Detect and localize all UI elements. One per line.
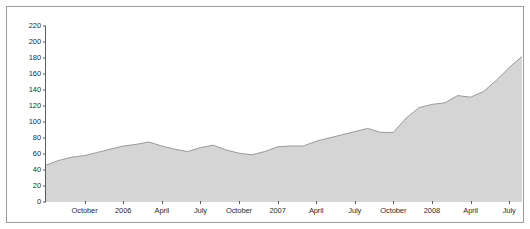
x-tick-label: July bbox=[503, 207, 516, 215]
y-tick-mark bbox=[43, 58, 46, 59]
x-tick-label: 2006 bbox=[115, 207, 131, 215]
y-tick-mark bbox=[43, 202, 46, 203]
y-tick-mark bbox=[43, 26, 46, 27]
y-tick-mark bbox=[43, 138, 46, 139]
x-tick-mark bbox=[393, 201, 394, 204]
area-chart-svg bbox=[46, 26, 522, 202]
x-tick-label: 2008 bbox=[424, 207, 440, 215]
y-tick-mark bbox=[43, 170, 46, 171]
y-tick-mark bbox=[43, 186, 46, 187]
y-tick-mark bbox=[43, 42, 46, 43]
x-tick-label: October bbox=[380, 207, 406, 215]
x-tick-mark bbox=[432, 201, 433, 204]
x-tick-label: July bbox=[348, 207, 361, 215]
x-tick-label: April bbox=[309, 207, 324, 215]
x-tick-label: 2007 bbox=[269, 207, 285, 215]
figure-container: 020406080100120140160180200220 October20… bbox=[0, 0, 530, 229]
x-tick-mark bbox=[162, 201, 163, 204]
y-tick-mark bbox=[43, 154, 46, 155]
x-tick-label: October bbox=[226, 207, 252, 215]
x-tick-mark bbox=[85, 201, 86, 204]
area-fill-path bbox=[46, 56, 522, 202]
x-tick-mark bbox=[355, 201, 356, 204]
y-tick-mark bbox=[43, 74, 46, 75]
figure-outer-frame: 020406080100120140160180200220 October20… bbox=[6, 6, 524, 223]
y-tick-mark bbox=[43, 90, 46, 91]
x-tick-mark bbox=[278, 201, 279, 204]
x-tick-mark bbox=[316, 201, 317, 204]
x-tick-label: April bbox=[463, 207, 478, 215]
x-tick-label: July bbox=[194, 207, 207, 215]
x-tick-mark bbox=[200, 201, 201, 204]
x-tick-label: April bbox=[155, 207, 170, 215]
x-tick-mark bbox=[471, 201, 472, 204]
x-tick-mark bbox=[509, 201, 510, 204]
x-tick-mark bbox=[239, 201, 240, 204]
x-tick-label: October bbox=[72, 207, 98, 215]
x-tick-mark bbox=[123, 201, 124, 204]
y-tick-mark bbox=[43, 106, 46, 107]
plot-area: 020406080100120140160180200220 October20… bbox=[45, 26, 521, 202]
y-tick-mark bbox=[43, 122, 46, 123]
